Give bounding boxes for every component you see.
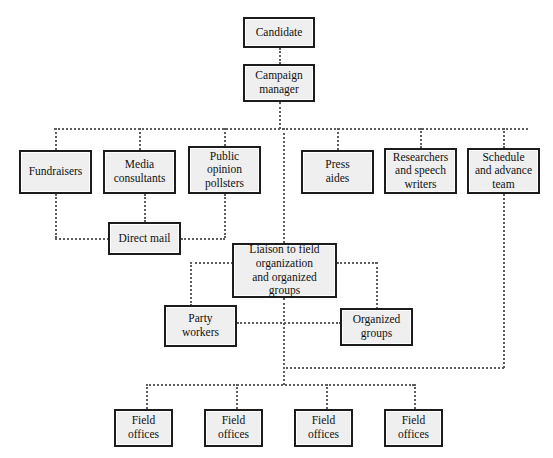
connector-bus-to-field-offices-3	[326, 384, 328, 409]
node-schedule-advance-team: Schedule and advance team	[467, 148, 540, 194]
connector-bus-to-media-consultants	[139, 128, 141, 150]
connector-liaison-drop	[283, 298, 285, 385]
node-label-organized-groups: Organized groups	[353, 313, 401, 340]
connector-liaison-right-stub	[337, 262, 377, 264]
connector-fundraisers-drop	[55, 194, 57, 238]
node-researchers-speech-writers: Researchers and speech writers	[384, 148, 457, 194]
connector-liaison-left-stub	[190, 262, 233, 264]
node-label-press-aides: Press aides	[325, 158, 349, 185]
connector-bus-to-press-aides	[337, 128, 339, 150]
node-field-offices-4: Field offices	[384, 409, 443, 447]
node-label-schedule-advance-team: Schedule and advance team	[475, 151, 532, 192]
connector-bus-to-fundraisers	[55, 128, 57, 150]
connector-candidate-to-manager	[279, 48, 281, 64]
node-label-party-workers: Party workers	[182, 312, 219, 339]
organization-chart: CandidateCampaign managerFundraisersMedi…	[0, 0, 553, 458]
node-label-field-offices-4: Field offices	[398, 414, 429, 441]
node-label-field-offices-2: Field offices	[218, 414, 249, 441]
connector-top-distribution-bus	[54, 128, 528, 130]
connector-bus-to-field-offices-1	[146, 384, 148, 409]
node-label-field-offices-1: Field offices	[128, 414, 159, 441]
connector-liaison-to-organized-groups	[376, 262, 378, 309]
connector-manager-to-bus	[279, 102, 281, 129]
node-label-candidate: Candidate	[256, 26, 303, 40]
node-liaison-field-organization: Liaison to field organization and organi…	[232, 243, 337, 298]
node-field-offices-3: Field offices	[294, 409, 353, 447]
node-fundraisers: Fundraisers	[19, 150, 92, 194]
connector-bus-to-field-offices-4	[414, 384, 416, 409]
connector-bus-to-field-offices-2	[236, 384, 238, 409]
node-candidate: Candidate	[243, 17, 315, 48]
connector-bus-to-liaison	[283, 128, 285, 243]
node-label-public-opinion-pollsters: Public opinion pollsters	[205, 150, 244, 191]
node-organized-groups: Organized groups	[340, 308, 413, 346]
node-label-fundraisers: Fundraisers	[29, 165, 83, 179]
connector-bus-to-pollsters	[224, 128, 226, 146]
connector-direct-mail-to-pollsters	[181, 238, 225, 240]
node-label-campaign-manager: Campaign manager	[255, 69, 302, 96]
node-label-media-consultants: Media consultants	[114, 158, 166, 185]
node-direct-mail: Direct mail	[108, 222, 181, 255]
connector-field-offices-bus	[146, 384, 414, 386]
connector-liaison-to-party-workers	[190, 262, 192, 306]
node-press-aides: Press aides	[301, 150, 374, 194]
connector-schedule-team-long-drop	[503, 194, 505, 368]
connector-bus-to-schedule-team	[503, 128, 505, 148]
node-party-workers: Party workers	[164, 305, 237, 347]
node-label-researchers-speech-writers: Researchers and speech writers	[393, 151, 449, 192]
node-label-direct-mail: Direct mail	[118, 232, 170, 246]
node-public-opinion-pollsters: Public opinion pollsters	[188, 146, 261, 194]
connector-media-to-direct-mail	[144, 194, 146, 222]
node-media-consultants: Media consultants	[103, 150, 176, 194]
connector-pollsters-drop	[224, 194, 226, 238]
connector-schedule-team-join-bus	[283, 367, 504, 369]
node-label-field-offices-3: Field offices	[308, 414, 339, 441]
connector-fundraisers-to-direct-mail	[55, 238, 109, 240]
connector-bus-to-researchers	[420, 128, 422, 148]
node-field-offices-1: Field offices	[114, 409, 173, 447]
node-field-offices-2: Field offices	[204, 409, 263, 447]
connector-party-to-organized-bus	[237, 322, 341, 324]
node-label-liaison-field-organization: Liaison to field organization and organi…	[249, 243, 319, 297]
node-campaign-manager: Campaign manager	[243, 64, 315, 102]
